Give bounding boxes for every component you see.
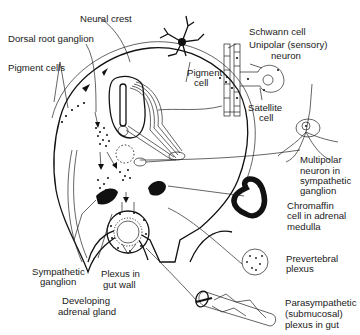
prevertebral-plexus-drawing [242,249,268,275]
embryo-section [52,42,255,272]
migrating-crest-cells [61,77,233,191]
label-sympathetic-2: ganglion [40,276,76,287]
label-multipolar-1: Multipolar [300,154,342,165]
multipolar-neuron-drawing [278,84,338,162]
label-satellite-2: cell [259,112,273,123]
label-neural-crest: Neural crest [80,13,132,24]
label-prevertebral-2: plexus [286,263,314,274]
label-parasym-1: Parasympathetic [285,297,357,308]
label-plexus-gut-1: Plexus in [101,268,140,279]
label-plexus-gut-2: gut wall [103,279,136,290]
nerve-bundle [126,82,185,166]
notochord [118,126,128,136]
label-multipolar-4: ganglion [300,185,336,196]
sympathetic-ganglion-mass [96,189,118,205]
label-parasym-2: (submucosal) [285,308,343,319]
label-adrenal-2: adrenal gland [58,306,116,317]
label-schwann-cell: Schwann cell [249,26,306,37]
label-chromaffin-3: medulla [287,221,321,232]
label-pigment-cells: Pigment cells [8,62,65,73]
label-chromaffin-2: cell in adrenal [287,210,346,221]
label-adrenal-1: Developing [62,295,110,306]
chromaffin-cell-drawing [234,179,264,216]
neural-crest-diagram: Neural crest Dorsal root ganglion Pigmen… [0,0,360,335]
label-unipolar-1: Unipolar (sensory) [249,39,327,50]
label-unipolar-2: neuron [271,50,301,61]
aorta [116,145,134,163]
label-pigment-cell-2: cell [194,77,208,88]
adrenal-mass [148,181,166,196]
label-parasym-3: plexus in gut [285,319,339,330]
label-dorsal-root-ganglion: Dorsal root ganglion [8,33,94,44]
parasympathetic-plexus-drawing [194,289,276,326]
